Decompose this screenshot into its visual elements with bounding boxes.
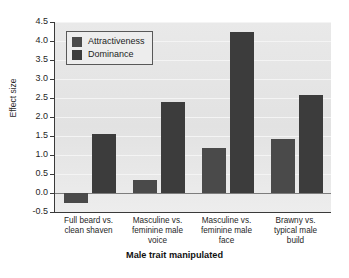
y-axis-tick-label: 0.5: [8, 169, 48, 178]
category-label-line: Masculine vs.: [192, 216, 261, 226]
bar-attractiveness-3: [271, 139, 295, 193]
bar-dominance-2: [230, 32, 254, 194]
x-axis-category-label: Masculine vs.feminine maleface: [192, 216, 261, 247]
y-axis-tick-label: 0.0: [8, 188, 48, 197]
y-axis-tick-label: 4.5: [8, 17, 48, 26]
category-label-line: Masculine vs.: [123, 216, 192, 226]
y-axis-tick-label: 4.0: [8, 36, 48, 45]
x-axis-category-label: Full beard vs.clean shaven: [54, 216, 123, 236]
category-label-line: face: [192, 236, 261, 246]
y-axis-tick-label: 3.5: [8, 55, 48, 64]
gridline: [55, 98, 331, 99]
bar-attractiveness-2: [202, 148, 226, 193]
y-axis-tick: [50, 136, 54, 137]
y-axis-tick-label: 2.5: [8, 93, 48, 102]
y-axis-tick-label: -0.5: [8, 207, 48, 216]
y-axis-tick: [50, 98, 54, 99]
y-axis-tick: [50, 22, 54, 23]
gridline: [55, 212, 331, 213]
category-label-line: typical male: [261, 226, 330, 236]
gridline: [55, 117, 331, 118]
legend-swatch-icon: [72, 50, 82, 60]
category-label-line: feminine male: [123, 226, 192, 236]
legend-label: Dominance: [88, 50, 134, 59]
y-axis-tick: [50, 193, 54, 194]
category-label-line: feminine male: [192, 226, 261, 236]
bar-chart: Effect size 4.54.03.53.02.52.01.51.00.50…: [0, 0, 349, 278]
y-axis-tick: [50, 79, 54, 80]
y-axis-tick: [50, 117, 54, 118]
legend-item-dominance: Dominance: [72, 48, 145, 61]
y-axis-tick: [50, 60, 54, 61]
legend-item-attractiveness: Attractiveness: [72, 35, 145, 48]
category-label-line: Full beard vs.: [54, 216, 123, 226]
gridline: [55, 79, 331, 80]
gridline: [55, 22, 331, 23]
y-axis-tick: [50, 41, 54, 42]
y-axis-tick-label: 1.0: [8, 150, 48, 159]
legend: Attractiveness Dominance: [66, 31, 153, 65]
y-axis-tick-label: 2.0: [8, 112, 48, 121]
category-label-line: Brawny vs.: [261, 216, 330, 226]
legend-swatch-icon: [72, 37, 82, 47]
y-axis-tick-label: 3.0: [8, 74, 48, 83]
x-axis-category-label: Brawny vs.typical malebuild: [261, 216, 330, 247]
y-axis-tick: [50, 174, 54, 175]
bar-attractiveness-0: [64, 193, 88, 203]
y-axis-tick: [50, 212, 54, 213]
y-axis-tick: [50, 155, 54, 156]
bar-dominance-0: [92, 134, 116, 193]
x-axis-title: Male trait manipulated: [0, 250, 349, 260]
zero-baseline: [55, 193, 331, 194]
legend-label: Attractiveness: [88, 37, 145, 46]
category-label-line: voice: [123, 236, 192, 246]
bar-dominance-3: [299, 95, 323, 193]
x-axis-category-label: Masculine vs.feminine malevoice: [123, 216, 192, 247]
category-label-line: build: [261, 236, 330, 246]
category-label-line: clean shaven: [54, 226, 123, 236]
bar-attractiveness-1: [133, 180, 157, 193]
y-axis-tick-label: 1.5: [8, 131, 48, 140]
bar-dominance-1: [161, 102, 185, 193]
